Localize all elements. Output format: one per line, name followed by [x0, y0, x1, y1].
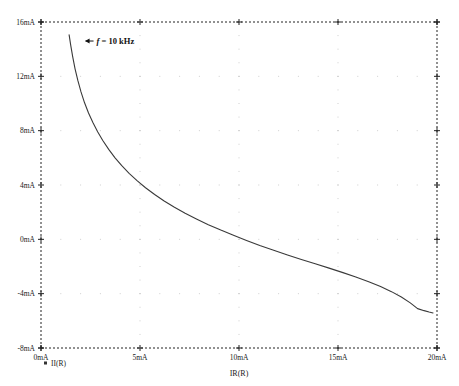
annotation-label: f = 10 kHz — [97, 36, 135, 46]
legend-label: II(R) — [51, 359, 66, 368]
x-tick-label: 5mA — [133, 353, 149, 362]
grid-dot — [298, 293, 299, 294]
grid-dot — [239, 334, 240, 335]
grid-dot — [239, 130, 240, 131]
grid-dot — [140, 198, 141, 199]
grid-dot — [80, 76, 81, 77]
grid-dot — [338, 252, 339, 253]
grid-dot — [338, 76, 339, 77]
grid-dot — [140, 62, 141, 63]
grid-dot — [397, 76, 398, 77]
grid-dot — [298, 185, 299, 186]
grid-dot — [338, 334, 339, 335]
grid-dots — [60, 35, 417, 335]
grid-dot — [140, 49, 141, 50]
grid-dot — [80, 185, 81, 186]
grid-dot — [120, 293, 121, 294]
grid-dot — [258, 185, 259, 186]
grid-dot — [80, 239, 81, 240]
grid-dot — [60, 130, 61, 131]
grid-dot — [417, 130, 418, 131]
grid-dot — [219, 185, 220, 186]
chart-root: 16mA12mA8mA4mA0mA-4mA-8mA0mA5mA10mA15mA2… — [0, 0, 459, 386]
frequency-annotation: f = 10 kHz — [85, 36, 134, 46]
grid-dot — [120, 185, 121, 186]
grid-dot — [60, 76, 61, 77]
x-tick-label: 20mA — [428, 353, 447, 362]
y-tick-label: -8mA — [18, 344, 36, 353]
grid-dot — [338, 35, 339, 36]
grid-dot — [338, 49, 339, 50]
grid-dot — [159, 76, 160, 77]
grid-dot — [318, 185, 319, 186]
grid-dot — [357, 130, 358, 131]
grid-dot — [357, 239, 358, 240]
grid-dot — [357, 293, 358, 294]
grid-dot — [179, 293, 180, 294]
grid-dot — [239, 144, 240, 145]
grid-dot — [239, 157, 240, 158]
annotation-arrow-head — [85, 38, 90, 43]
tick-labels: 16mA12mA8mA4mA0mA-4mA-8mA0mA5mA10mA15mA2… — [16, 18, 447, 362]
grid-dot — [338, 320, 339, 321]
grid-dot — [397, 239, 398, 240]
grid-dot — [338, 198, 339, 199]
grid-dot — [278, 293, 279, 294]
x-axis-title: IR(R) — [230, 369, 249, 378]
grid-dot — [417, 293, 418, 294]
grid-dot — [140, 144, 141, 145]
grid-dot — [239, 76, 240, 77]
x-tick-label: 10mA — [230, 353, 249, 362]
grid-dot — [239, 212, 240, 213]
grid-dot — [258, 76, 259, 77]
grid-dot — [199, 293, 200, 294]
grid-dot — [179, 130, 180, 131]
grid-dot — [140, 225, 141, 226]
grid-dot — [199, 130, 200, 131]
grid-dot — [100, 293, 101, 294]
grid-dot — [140, 157, 141, 158]
grid-dot — [199, 76, 200, 77]
grid-dot — [278, 185, 279, 186]
grid-dot — [140, 103, 141, 104]
y-tick-label: 8mA — [20, 126, 36, 135]
grid-dot — [377, 293, 378, 294]
grid-dot — [298, 76, 299, 77]
grid-dot — [179, 239, 180, 240]
grid-dot — [239, 198, 240, 199]
grid-dot — [60, 293, 61, 294]
grid-dot — [159, 130, 160, 131]
grid-dot — [377, 130, 378, 131]
data-series-line — [69, 35, 433, 313]
y-tick-label: -4mA — [18, 289, 36, 298]
grid-dot — [239, 171, 240, 172]
grid-dot — [100, 130, 101, 131]
grid-dot — [318, 130, 319, 131]
grid-dot — [140, 117, 141, 118]
grid-dot — [239, 225, 240, 226]
impedance-locus-chart: 16mA12mA8mA4mA0mA-4mA-8mA0mA5mA10mA15mA2… — [0, 0, 459, 386]
grid-dot — [318, 76, 319, 77]
grid-dot — [199, 239, 200, 240]
grid-dot — [357, 76, 358, 77]
grid-dot — [140, 280, 141, 281]
grid-dot — [80, 130, 81, 131]
grid-dot — [120, 130, 121, 131]
grid-dot — [100, 76, 101, 77]
grid-dot — [239, 35, 240, 36]
grid-dot — [219, 239, 220, 240]
grid-dot — [140, 293, 141, 294]
grid-dot — [199, 185, 200, 186]
grid-dot — [179, 185, 180, 186]
grid-dot — [338, 171, 339, 172]
grid-dot — [397, 130, 398, 131]
grid-dot — [338, 117, 339, 118]
grid-dot — [120, 239, 121, 240]
grid-dot — [338, 239, 339, 240]
y-tick-label: 16mA — [16, 18, 35, 27]
grid-dot — [80, 293, 81, 294]
grid-dot — [239, 49, 240, 50]
grid-dot — [417, 76, 418, 77]
grid-dot — [258, 239, 259, 240]
grid-dot — [338, 157, 339, 158]
